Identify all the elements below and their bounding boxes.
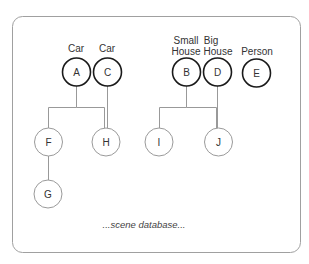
label-d-line1: Big — [204, 35, 218, 46]
node-a-label: A — [73, 67, 80, 78]
node-d-label: D — [214, 67, 221, 78]
node-b: B — [173, 58, 201, 86]
label-c: Car — [99, 43, 116, 54]
node-g-label: G — [44, 189, 52, 200]
node-d: D — [204, 58, 232, 86]
node-h-label: H — [102, 137, 109, 148]
scene-database-caption: ...scene database... — [103, 219, 186, 230]
scene-database-diagram: Car Car Small House Big House Person A C… — [0, 0, 309, 264]
node-f-label: F — [45, 137, 51, 148]
label-a: Car — [68, 43, 85, 54]
node-a: A — [63, 58, 91, 86]
node-h: H — [92, 128, 120, 156]
node-e: E — [243, 59, 271, 87]
node-i-label: I — [158, 137, 161, 148]
node-b-label: B — [183, 67, 190, 78]
label-b-line2: House — [172, 46, 201, 57]
node-c-label: C — [104, 67, 111, 78]
label-d-line2: House — [204, 46, 233, 57]
edge-b-to-i-j — [160, 86, 217, 128]
label-b-line1: Small — [173, 35, 198, 46]
node-e-label: E — [253, 68, 260, 79]
node-g: G — [34, 180, 62, 208]
node-f: F — [35, 128, 63, 156]
node-j: J — [205, 128, 233, 156]
node-c: C — [94, 58, 122, 86]
node-j-label: J — [216, 137, 221, 148]
label-e: Person — [241, 46, 273, 57]
edges — [49, 86, 218, 180]
edge-a-to-f-h — [49, 86, 105, 128]
node-i: I — [145, 128, 173, 156]
